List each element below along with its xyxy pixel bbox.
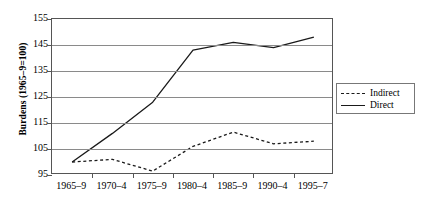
- legend-label: Direct: [365, 100, 394, 110]
- y-tick-label: 155: [2, 13, 48, 23]
- y-tick-mark: [47, 97, 52, 98]
- x-tick-label: 1995–7: [298, 180, 328, 191]
- x-tick-label: 1980–4: [177, 180, 207, 191]
- x-tick-mark: [253, 173, 254, 178]
- legend-item-indirect[interactable]: Indirect: [337, 87, 414, 99]
- y-tick-mark: [47, 149, 52, 150]
- y-tick-mark: [47, 45, 52, 46]
- x-tick-mark: [173, 173, 174, 178]
- x-tick-label: 1975–9: [137, 180, 167, 191]
- y-tick-mark: [47, 175, 52, 176]
- dashed-line-swatch-icon: [341, 89, 365, 97]
- series-line-indirect: [72, 132, 314, 171]
- x-axis-tick-labels: 1965–91970–41975–91980–41985–91990–41995…: [51, 180, 333, 196]
- y-tick-label: 145: [2, 39, 48, 49]
- y-tick-label: 115: [2, 117, 48, 127]
- series-line-direct: [72, 37, 314, 162]
- line-chart: Burdens (1965–9=100) 9510511512513514515…: [0, 0, 421, 208]
- x-tick-mark: [133, 173, 134, 178]
- plot-area: [51, 18, 333, 174]
- y-tick-label: 105: [2, 143, 48, 153]
- y-tick-label: 125: [2, 91, 48, 101]
- y-tick-mark: [47, 71, 52, 72]
- x-tick-label: 1985–9: [217, 180, 247, 191]
- y-tick-label: 135: [2, 65, 48, 75]
- x-tick-mark: [294, 173, 295, 178]
- x-tick-label: 1990–4: [258, 180, 288, 191]
- x-tick-mark: [213, 173, 214, 178]
- legend-item-direct[interactable]: Direct: [337, 99, 414, 111]
- solid-line-swatch-icon: [341, 101, 365, 109]
- y-tick-mark: [47, 123, 52, 124]
- x-tick-label: 1970–4: [96, 180, 126, 191]
- y-axis-tick-labels: 95105115125135145155: [0, 0, 48, 208]
- gridline: [52, 45, 332, 46]
- legend: Indirect Direct: [336, 83, 415, 114]
- gridline: [52, 149, 332, 150]
- x-tick-mark: [92, 173, 93, 178]
- x-tick-label: 1965–9: [56, 180, 86, 191]
- gridline: [52, 71, 332, 72]
- gridline: [52, 97, 332, 98]
- y-tick-label: 95: [2, 169, 48, 179]
- gridline: [52, 123, 332, 124]
- y-tick-mark: [47, 19, 52, 20]
- legend-label: Indirect: [365, 88, 400, 98]
